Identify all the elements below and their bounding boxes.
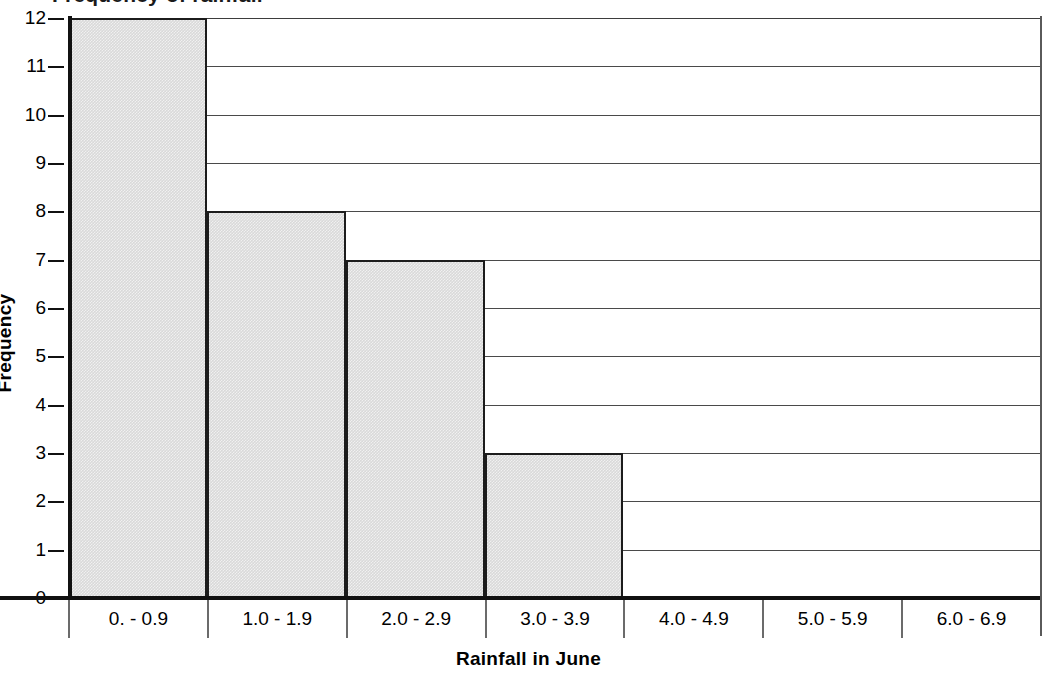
y-tick-label: 12 bbox=[6, 8, 46, 27]
y-tick-mark bbox=[48, 211, 64, 213]
gridline bbox=[68, 66, 1040, 67]
y-tick-label: 1 bbox=[6, 540, 46, 559]
gridline bbox=[68, 163, 1040, 164]
y-tick-label: 8 bbox=[6, 201, 46, 220]
y-tick-label: 11 bbox=[6, 56, 46, 75]
y-tick-mark bbox=[48, 356, 64, 358]
y-tick-label: 4 bbox=[6, 395, 46, 414]
plot-right-frame bbox=[1040, 16, 1042, 636]
y-tick-label: 5 bbox=[6, 346, 46, 365]
y-tick-mark bbox=[48, 405, 64, 407]
bar bbox=[68, 18, 207, 598]
y-tick-label: 3 bbox=[6, 443, 46, 462]
y-tick-mark bbox=[48, 115, 64, 117]
x-axis-category-cells: 0. - 0.91.0 - 1.92.0 - 2.93.0 - 3.94.0 -… bbox=[68, 600, 1040, 638]
y-tick-label: 6 bbox=[6, 298, 46, 317]
plot-area bbox=[68, 18, 1040, 598]
y-tick-label: 2 bbox=[6, 491, 46, 510]
x-tick-label: 3.0 - 3.9 bbox=[485, 600, 624, 638]
gridline bbox=[68, 18, 1040, 19]
x-tick-label: 4.0 - 4.9 bbox=[623, 600, 762, 638]
x-tick-label: 0. - 0.9 bbox=[68, 600, 207, 638]
x-tick-label: 1.0 - 1.9 bbox=[207, 600, 346, 638]
y-tick-mark bbox=[48, 260, 64, 262]
y-tick-label: 7 bbox=[6, 250, 46, 269]
chart-title-cropped: Frequency of rainfall bbox=[0, 0, 1057, 10]
y-tick-mark bbox=[48, 501, 64, 503]
y-tick-mark bbox=[48, 66, 64, 68]
bar bbox=[485, 453, 624, 598]
y-tick-mark bbox=[48, 550, 64, 552]
x-tick-label: 5.0 - 5.9 bbox=[762, 600, 901, 638]
y-axis-spine bbox=[68, 16, 72, 600]
x-axis-title: Rainfall in June bbox=[0, 648, 1057, 670]
y-tick-mark bbox=[48, 163, 64, 165]
gridline bbox=[68, 115, 1040, 116]
x-tick-label: 2.0 - 2.9 bbox=[346, 600, 485, 638]
chart-title-text: Frequency of rainfall bbox=[52, 0, 263, 7]
y-tick-label: 10 bbox=[6, 105, 46, 124]
y-tick-label: 9 bbox=[6, 153, 46, 172]
x-tick-label: 6.0 - 6.9 bbox=[901, 600, 1040, 638]
y-tick-mark bbox=[48, 308, 64, 310]
bar bbox=[346, 260, 485, 598]
bar bbox=[207, 211, 346, 598]
y-tick-mark bbox=[48, 18, 64, 20]
y-tick-mark bbox=[48, 453, 64, 455]
